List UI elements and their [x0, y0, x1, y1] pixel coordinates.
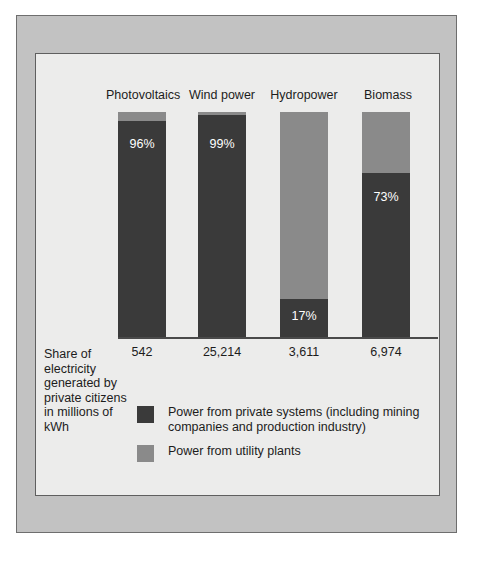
value-label-biomass: 6,974	[362, 345, 410, 359]
category-label-hydropower: Hydropower	[265, 88, 343, 102]
axis-baseline	[118, 337, 438, 339]
category-label-biomass: Biomass	[352, 88, 424, 102]
bar-label-wind-power: 99%	[198, 137, 246, 151]
bar-segment-private-wind-power: 99%	[198, 115, 246, 337]
category-label-wind-power: Wind power	[185, 88, 259, 102]
value-label-hydropower: 3,611	[280, 345, 328, 359]
scanned-page: Photovoltaics Wind power Hydropower Biom…	[0, 0, 489, 561]
bar-segment-private-biomass: 73%	[362, 173, 410, 337]
bar-label-hydropower: 17%	[280, 309, 328, 323]
bar-segment-utility-photovoltaics	[118, 112, 166, 121]
bar-label-biomass: 73%	[362, 190, 410, 204]
legend-label-private: Power from private systems (including mi…	[168, 405, 438, 435]
legend-label-utility: Power from utility plants	[168, 444, 438, 459]
legend-swatch-private	[137, 406, 154, 423]
value-label-wind-power: 25,214	[198, 345, 246, 359]
bar-photovoltaics: 96%	[118, 112, 166, 337]
bar-segment-utility-biomass	[362, 112, 410, 173]
bar-segment-private-photovoltaics: 96%	[118, 121, 166, 337]
bar-biomass: 73%	[362, 112, 410, 337]
bar-segment-private-hydropower: 17%	[280, 299, 328, 337]
category-label-photovoltaics: Photovoltaics	[106, 88, 178, 102]
bar-segment-utility-hydropower	[280, 112, 328, 299]
legend-swatch-utility	[137, 445, 154, 462]
axis-caption: Share of electricity generated by privat…	[44, 347, 134, 434]
bar-label-photovoltaics: 96%	[118, 137, 166, 151]
bar-wind-power: 99%	[198, 112, 246, 337]
bar-hydropower: 17%	[280, 112, 328, 337]
